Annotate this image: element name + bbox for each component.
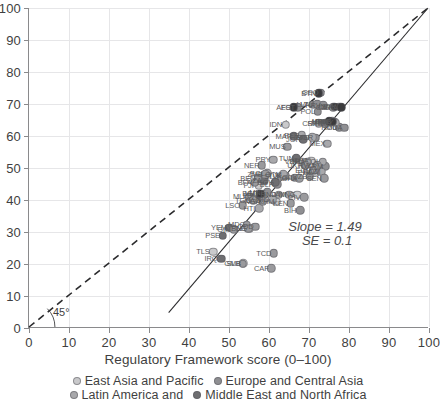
scatter-point-label: CIV [288, 194, 300, 202]
y-tick-label: 50 [6, 161, 21, 176]
annotation-se: SE = 0.1 [302, 233, 352, 248]
reference-lines [29, 8, 428, 327]
legend-swatch-icon [214, 377, 222, 385]
x-tick-mark [229, 328, 230, 333]
scatter-point-label: MUS [269, 144, 285, 152]
y-tick-mark [24, 232, 29, 233]
chart-legend: East Asia and PacificEurope and Central … [0, 374, 436, 401]
x-tick-mark [389, 328, 390, 333]
scatter-point-label: POL [300, 108, 315, 116]
scatter-point-label: IRQ [204, 256, 217, 264]
scatter-point-label: GIN [217, 226, 230, 234]
scatter-point-label: IDN [269, 122, 282, 130]
scatter-point-label: KEN [273, 200, 288, 208]
y-tick-label: 40 [6, 193, 21, 208]
scatter-point-label: BTN [301, 90, 316, 98]
legend-swatch-icon [73, 377, 81, 385]
scatter-point-label: LSO [225, 202, 240, 210]
scatter-point-label: PAK [315, 119, 329, 127]
scatter-point-label: BGD [242, 190, 258, 198]
scatter-point-label: TCD [256, 250, 271, 258]
x-tick-label: 40 [182, 335, 197, 350]
x-tick-mark [109, 328, 110, 333]
y-tick-label: 70 [6, 97, 21, 112]
legend-item[interactable]: Middle East and North Africa [193, 388, 366, 401]
y-tick-mark [24, 296, 29, 297]
y-tick-mark [24, 264, 29, 265]
legend-label: Latin America and [82, 388, 184, 401]
y-tick-label: 0 [14, 321, 21, 336]
y-tick-mark [24, 104, 29, 105]
scatter-point-label: LKA [324, 104, 338, 112]
x-tick-label: 80 [342, 335, 357, 350]
legend-swatch-icon [70, 391, 78, 399]
scatter-point-label: GMB [224, 260, 241, 268]
gridline-vertical [429, 8, 430, 327]
legend-row: Latin America andMiddle East and North A… [70, 388, 367, 401]
x-axis-title: Regulatory Framework score (0–100) [0, 352, 436, 367]
scatter-point-label: JOR [286, 136, 301, 144]
y-tick-mark [24, 40, 29, 41]
x-tick-label: 50 [222, 335, 237, 350]
annotation-slope: Slope = 1.49 [288, 218, 361, 233]
y-tick-label: 80 [6, 65, 21, 80]
scatter-point [300, 193, 309, 202]
legend-label: Middle East and North Africa [205, 388, 366, 401]
y-tick-label: 20 [6, 257, 21, 272]
x-tick-mark [69, 328, 70, 333]
y-tick-mark [24, 200, 29, 201]
x-tick-mark [149, 328, 150, 333]
x-tick-mark [349, 328, 350, 333]
y-tick-mark [24, 8, 29, 9]
scatter-point-label: SEN [307, 175, 322, 183]
x-tick-label: 70 [302, 335, 317, 350]
y-tick-label: 30 [6, 225, 21, 240]
x-tick-mark [309, 328, 310, 333]
legend-item[interactable]: Latin America and [70, 388, 184, 401]
scatter-point-label: TUN [279, 155, 294, 163]
scatter-point-label: BIH [284, 207, 296, 215]
legend-row: East Asia and PacificEurope and Central … [73, 374, 364, 388]
x-tick-label: 30 [142, 335, 157, 350]
legend-label: Europe and Central Asia [226, 374, 364, 388]
y-tick-label: 60 [6, 129, 21, 144]
x-tick-mark [429, 328, 430, 333]
identity-45-degree-line [29, 8, 428, 327]
scatter-point-label: GHA [281, 175, 297, 183]
scatter-point-label: HTI [243, 205, 255, 213]
y-tick-label: 90 [6, 33, 21, 48]
x-tick-mark [29, 328, 30, 333]
plot-area: IDNTHAPHLVNMMNGKHMLAOFJIPNGSLBTLSVUTESTG… [28, 8, 428, 328]
y-tick-mark [24, 168, 29, 169]
scatter-point-label: ZMB [247, 171, 263, 179]
scatter-point-label: NGA [245, 198, 261, 206]
scatter-point-label: MEX [309, 140, 325, 148]
legend-label: East Asia and Pacific [85, 374, 204, 388]
annotation-angle: 45° [53, 306, 70, 318]
x-tick-label: 20 [102, 335, 117, 350]
y-tick-label: 10 [6, 289, 21, 304]
scatter-point-label: CAF [254, 265, 269, 273]
y-tick-label: 100 [0, 1, 21, 16]
scatter-point-label: NER [244, 162, 260, 170]
legend-swatch-icon [193, 391, 201, 399]
scatter-point-label: SLE [231, 226, 245, 234]
scatter-point [282, 121, 291, 130]
scatter-point [296, 206, 305, 215]
x-tick-label: 60 [262, 335, 277, 350]
x-tick-label: 0 [25, 335, 32, 350]
y-tick-mark [24, 136, 29, 137]
x-tick-label: 90 [382, 335, 397, 350]
x-tick-mark [189, 328, 190, 333]
x-tick-mark [269, 328, 270, 333]
x-tick-label: 100 [418, 335, 440, 350]
scatter-point-label: RWA [299, 162, 316, 170]
legend-item[interactable]: Europe and Central Asia [214, 374, 364, 388]
scatter-point-label: AFG [276, 104, 291, 112]
scatter-point-label: BFA [238, 179, 252, 187]
y-tick-mark [24, 72, 29, 73]
x-tick-label: 10 [62, 335, 77, 350]
legend-item[interactable]: East Asia and Pacific [73, 374, 204, 388]
